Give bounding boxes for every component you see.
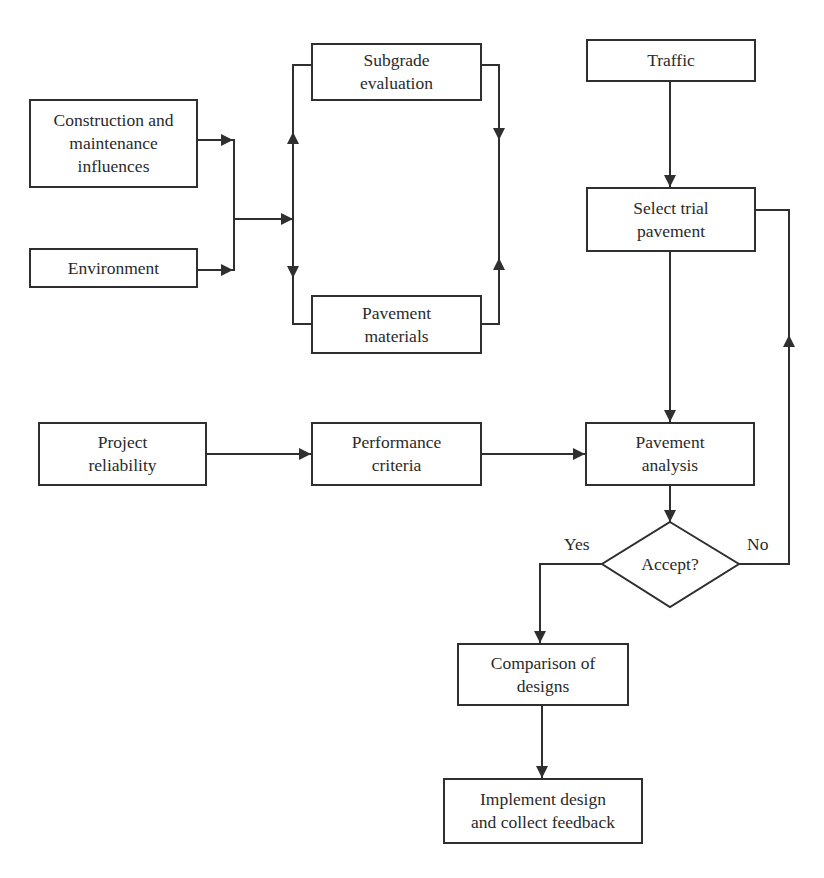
node-environment: Environment xyxy=(29,248,198,288)
node-label: Implement design and collect feedback xyxy=(471,788,615,834)
node-pavement-materials: Pavement materials xyxy=(311,295,482,354)
node-comparison-of-designs: Comparison of designs xyxy=(457,643,629,706)
node-label: Construction and maintenance influences xyxy=(53,109,173,178)
node-accept-label: Accept? xyxy=(610,554,730,574)
edge-no-loop xyxy=(739,210,789,564)
node-label: Traffic xyxy=(647,49,695,72)
edge-loop-right xyxy=(481,65,499,324)
node-label: Comparison of designs xyxy=(491,652,596,698)
node-label: Pavement materials xyxy=(362,302,431,348)
node-pavement-analysis: Pavement analysis xyxy=(585,422,755,486)
node-implement-design: Implement design and collect feedback xyxy=(443,778,643,844)
edge-label-yes: Yes xyxy=(564,534,589,554)
flowchart-canvas: Construction and maintenance influences … xyxy=(0,0,824,878)
node-traffic: Traffic xyxy=(586,39,756,82)
edge-yes xyxy=(540,564,602,643)
node-label: Performance criteria xyxy=(352,431,441,477)
node-subgrade-evaluation: Subgrade evaluation xyxy=(311,43,482,101)
node-label: Pavement analysis xyxy=(635,431,704,477)
node-select-trial-pavement: Select trial pavement xyxy=(586,187,756,252)
node-construction-maintenance: Construction and maintenance influences xyxy=(29,99,198,188)
node-label: Environment xyxy=(68,257,159,280)
node-project-reliability: Project reliability xyxy=(38,422,207,486)
edge-label-no: No xyxy=(747,534,768,554)
node-label: Select trial pavement xyxy=(633,197,708,243)
node-performance-criteria: Performance criteria xyxy=(311,422,482,486)
edge-loop-left xyxy=(293,65,311,324)
node-label: Subgrade evaluation xyxy=(360,49,433,95)
node-label: Project reliability xyxy=(88,431,156,477)
